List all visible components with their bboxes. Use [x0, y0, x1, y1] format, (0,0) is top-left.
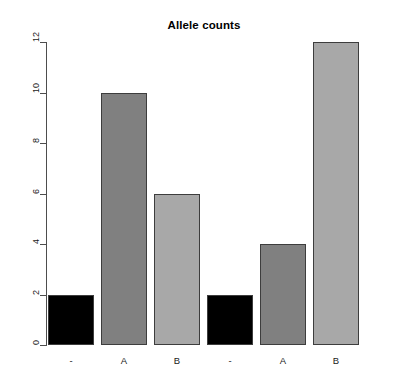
y-axis-tick-mark: [40, 295, 46, 296]
y-axis-line: [46, 42, 47, 346]
bar: [48, 295, 94, 345]
y-axis-tick-mark: [40, 42, 46, 43]
y-axis-tick-mark: [40, 244, 46, 245]
x-axis-tick-label: A: [101, 355, 147, 366]
y-axis-tick-mark: [40, 143, 46, 144]
bar: [101, 93, 147, 345]
bar: [313, 42, 359, 345]
y-axis-tick-mark: [40, 93, 46, 94]
x-axis-tick-label: A: [260, 355, 306, 366]
x-axis-tick-label: -: [48, 355, 94, 366]
bar: [260, 244, 306, 345]
bar-chart-figure: Allele counts 024681012-AB-AB: [0, 0, 408, 385]
bar: [154, 194, 200, 345]
x-axis-tick-label: -: [207, 355, 253, 366]
y-axis-tick-mark: [40, 194, 46, 195]
bar: [207, 295, 253, 345]
x-axis-tick-label: B: [313, 355, 359, 366]
y-axis-tick-mark: [40, 345, 46, 346]
x-axis-tick-label: B: [154, 355, 200, 366]
plot-area: 024681012-AB-AB: [0, 0, 408, 385]
